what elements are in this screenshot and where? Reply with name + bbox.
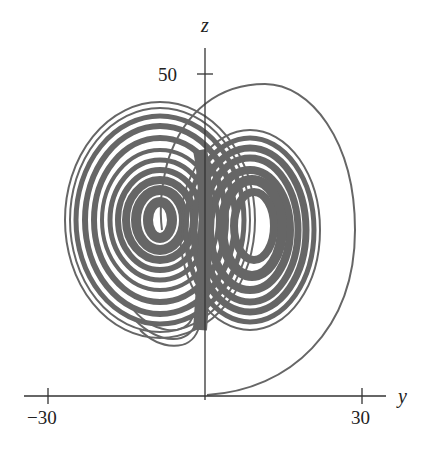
z-tick-label-50: 50 [158, 64, 177, 85]
attractor-curves [65, 84, 355, 395]
x-tick-label-neg30: −30 [27, 407, 57, 428]
x-tick-label-30: 30 [351, 407, 370, 428]
y-axis-label: y [396, 385, 407, 408]
lorenz-chart: z y 50 −30 30 [0, 0, 441, 456]
z-axis-label: z [200, 14, 209, 36]
